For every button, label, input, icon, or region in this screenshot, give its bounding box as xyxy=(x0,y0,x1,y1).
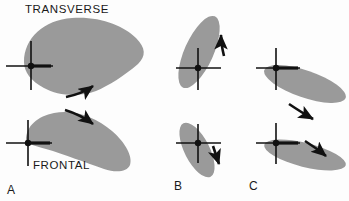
shape-teardrop-wide xyxy=(24,18,144,95)
panel-c-frontal xyxy=(256,123,349,177)
panel-letter-b: B xyxy=(174,179,182,193)
panel-b-transverse xyxy=(170,10,228,93)
shape-ellipse-steep-up-right xyxy=(170,10,228,93)
panel-b-frontal xyxy=(172,118,222,183)
panel-a-transverse xyxy=(6,18,144,97)
view-label-transverse: TRANSVERSE xyxy=(25,3,109,15)
figure-panel-group: TRANSVERSE FRONTAL A B C xyxy=(0,0,349,201)
panel-letter-c: C xyxy=(249,179,258,193)
motion-arrow xyxy=(221,35,224,56)
shape-ellipse-shallow-down-right xyxy=(261,133,348,177)
view-label-frontal: FRONTAL xyxy=(33,159,90,171)
panel-letter-a: A xyxy=(7,183,15,197)
shape-ellipse-shallow-down-right xyxy=(260,57,349,111)
motion-arrow xyxy=(289,104,313,119)
panel-c-transverse xyxy=(256,48,349,119)
